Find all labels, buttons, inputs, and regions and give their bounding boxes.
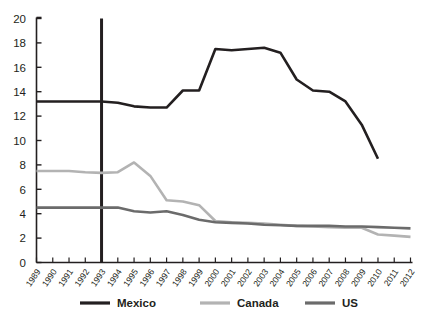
x-axis-tick-label: 1997 xyxy=(154,267,173,289)
x-axis-tick-label: 2001 xyxy=(219,267,238,289)
x-axis-tick-label: 2012 xyxy=(398,267,417,289)
x-axis-tick-label: 2002 xyxy=(235,267,254,289)
y-axis-tick-label: 18 xyxy=(13,37,26,49)
y-axis-tick-labels: 02468101214161820 xyxy=(13,13,26,269)
y-axis-tick-label: 4 xyxy=(20,208,27,220)
y-axis-tick-label: 2 xyxy=(20,232,26,244)
y-axis-tick-label: 6 xyxy=(20,184,26,196)
x-axis-tick-label: 2004 xyxy=(267,267,286,289)
x-axis-tick-label: 2003 xyxy=(251,267,270,289)
chart-container: 02468101214161820 1989199019911992199319… xyxy=(0,0,427,320)
x-axis-tick-label: 1991 xyxy=(56,267,75,289)
x-axis-tick-label: 1994 xyxy=(105,267,124,289)
x-axis-tick-label: 1990 xyxy=(40,267,59,289)
y-axis-tick-label: 20 xyxy=(13,13,26,25)
y-axis-tick-label: 0 xyxy=(20,257,26,269)
y-axis-tick-label: 12 xyxy=(13,110,26,122)
x-axis-tick-label: 2011 xyxy=(382,267,401,288)
y-axis-tick-label: 8 xyxy=(20,159,26,171)
x-axis-tick-label: 2005 xyxy=(284,267,303,289)
x-axis-tick-label: 2010 xyxy=(365,267,384,289)
x-axis-tick-labels: 1989199019911992199319941995199619971998… xyxy=(24,267,417,289)
x-axis-tick-label: 1992 xyxy=(72,267,91,289)
line-chart: 02468101214161820 1989199019911992199319… xyxy=(0,0,427,320)
x-axis-tick-label: 1998 xyxy=(170,267,189,289)
y-axis-tick-label: 14 xyxy=(13,86,26,98)
y-axis-tick-label: 16 xyxy=(13,62,26,74)
legend-label-mexico: Mexico xyxy=(117,297,156,309)
data-series-layer xyxy=(37,48,411,237)
x-axis-tick-label: 1996 xyxy=(137,267,156,289)
x-axis-tick-label: 2000 xyxy=(202,267,221,289)
x-axis-tick-label: 1995 xyxy=(121,267,140,289)
x-axis-tick-label: 2009 xyxy=(349,267,368,289)
x-axis-tick-label: 2007 xyxy=(316,267,335,289)
x-axis-tick-label: 1999 xyxy=(186,267,205,289)
chart-legend: MexicoCanadaUS xyxy=(80,297,358,309)
series-line-mexico xyxy=(37,48,378,159)
x-axis-tick-label: 1989 xyxy=(24,267,43,289)
x-axis-tick-label: 2006 xyxy=(300,267,319,289)
x-axis-tick-label: 2008 xyxy=(333,267,352,289)
legend-label-us: US xyxy=(342,297,358,309)
x-axis-tick-label: 1993 xyxy=(89,267,108,289)
y-axis-tick-label: 10 xyxy=(13,135,26,147)
series-line-us xyxy=(37,208,411,229)
legend-label-canada: Canada xyxy=(237,297,279,309)
